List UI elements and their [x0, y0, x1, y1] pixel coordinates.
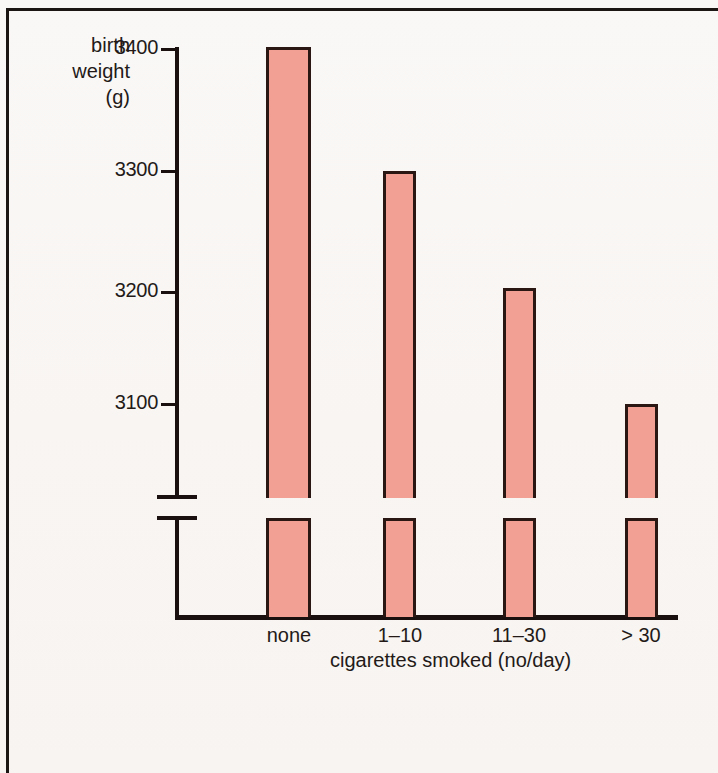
y-tick-mark-3300 — [161, 170, 179, 173]
y-tick-label-3300: 3300 — [88, 158, 158, 181]
y-axis-title-line-3: (g) — [38, 84, 130, 110]
bar-upper-1-10[interactable] — [383, 171, 416, 498]
y-tick-label-3200: 3200 — [88, 279, 158, 302]
y-axis-title-line-2: weight — [38, 58, 130, 84]
x-category-label-1-10: 1–10 — [350, 624, 450, 647]
bar-upper-none[interactable] — [266, 47, 311, 498]
bar-lower-11-30[interactable] — [503, 518, 536, 617]
x-axis-baseline — [175, 615, 678, 620]
bar-lower-1-10[interactable] — [383, 518, 416, 617]
y-axis-upper-spine — [175, 47, 179, 499]
y-axis-title: birth weight (g) — [38, 32, 130, 110]
y-tick-mark-3200 — [161, 291, 179, 294]
x-category-label-none: none — [239, 624, 339, 647]
y-axis-break-mark-lower — [157, 516, 197, 520]
bar-lower-over-30[interactable] — [625, 518, 658, 617]
figure-root: 3400 3300 3200 3100 birth weight (g) non… — [0, 0, 718, 773]
y-axis-lower-spine — [175, 518, 179, 620]
y-axis-break-mark-upper — [157, 495, 197, 499]
x-category-label-11-30: 11–30 — [469, 624, 569, 647]
bar-upper-11-30[interactable] — [503, 288, 536, 498]
x-category-label-over-30: > 30 — [591, 624, 691, 647]
bar-upper-over-30[interactable] — [625, 404, 658, 498]
bar-lower-none[interactable] — [266, 518, 311, 617]
y-tick-mark-3100 — [161, 403, 179, 406]
y-axis-title-line-1: birth — [38, 32, 130, 58]
y-tick-mark-3400 — [161, 48, 179, 51]
x-axis-title: cigarettes smoked (no/day) — [330, 649, 571, 672]
bar-chart-plot-area: 3400 3300 3200 3100 birth weight (g) non… — [0, 0, 718, 773]
y-tick-label-3100: 3100 — [88, 391, 158, 414]
